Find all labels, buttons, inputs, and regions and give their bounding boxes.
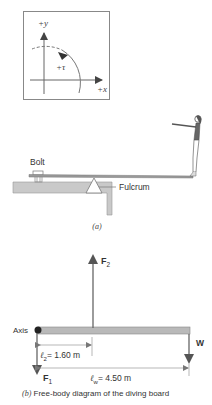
force-f1-label: F1	[43, 373, 53, 385]
diving-board	[29, 175, 193, 179]
axis-pivot-icon	[35, 327, 42, 334]
rotation-arc-dashed	[32, 46, 62, 50]
weight-w-label: W	[196, 338, 205, 348]
y-axis-label: +y	[38, 18, 48, 28]
l2-dimension-label: ℓ2= 1.60 m	[40, 350, 80, 362]
lw-dimension-label: ℓw= 4.50 m	[90, 373, 131, 385]
torque-direction-label: +τ	[56, 62, 66, 72]
diver-figure	[172, 115, 201, 176]
axis-label: Axis	[13, 326, 28, 335]
panel-a-scene: Bolt Fulcrum (a)	[13, 115, 201, 231]
panel-a-caption: (a)	[92, 222, 102, 231]
x-axis-label: +x	[97, 84, 107, 94]
fulcrum-label: Fulcrum	[119, 182, 150, 192]
panel-b-free-body-diagram: F2 F1 W Axis ℓ2= 1.60 m ℓw= 4.50 m (b) F…	[13, 256, 205, 398]
diving-board-figure: +y +x +τ Bolt Fulcrum (a)	[0, 0, 212, 405]
force-f2-label: F2	[101, 256, 111, 268]
panel-b-caption: (b) Free-body diagram of the diving boar…	[22, 389, 169, 398]
axes-panel: +y +x +τ	[24, 12, 110, 100]
bolt-label: Bolt	[30, 157, 45, 167]
board-bar	[38, 327, 190, 334]
